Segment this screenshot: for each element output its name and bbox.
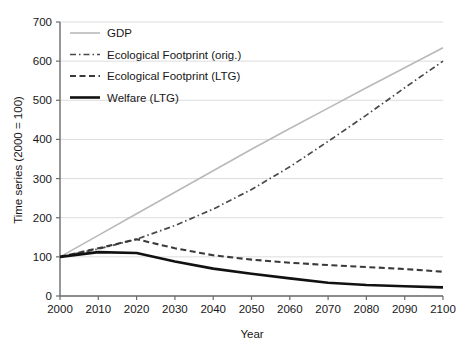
x-axis-tick-label: 2030 bbox=[162, 303, 188, 315]
line-chart: 0100200300400500600700 20002010202020302… bbox=[0, 0, 463, 345]
y-axis-tick-label: 700 bbox=[33, 16, 52, 28]
x-axis-tick-label: 2060 bbox=[277, 303, 303, 315]
y-axis-tick-label: 300 bbox=[33, 173, 52, 185]
chart-container: 0100200300400500600700 20002010202020302… bbox=[0, 0, 463, 345]
y-axis-tick-label: 600 bbox=[33, 55, 52, 67]
x-axis-tick-label: 2050 bbox=[239, 303, 265, 315]
y-axis-title: Time series (2000 = 100) bbox=[12, 96, 24, 224]
legend-label-3: Welfare (LTG) bbox=[107, 92, 179, 104]
x-axis-tick-label: 2100 bbox=[430, 303, 456, 315]
x-axis-tick-label: 2010 bbox=[86, 303, 112, 315]
x-axis-tick-label: 2070 bbox=[315, 303, 341, 315]
y-axis-tick-label: 400 bbox=[33, 133, 52, 145]
y-axis-tick-label: 500 bbox=[33, 94, 52, 106]
x-axis-tick-label: 2020 bbox=[124, 303, 150, 315]
x-axis-title: Year bbox=[240, 328, 263, 340]
y-axis-tick-label: 100 bbox=[33, 251, 52, 263]
x-axis-tick-label: 2090 bbox=[392, 303, 418, 315]
y-axis-tick-label: 200 bbox=[33, 212, 52, 224]
legend-label-2: Ecological Footprint (LTG) bbox=[107, 70, 241, 82]
y-axis-tick-label: 0 bbox=[46, 290, 52, 302]
x-axis-tick-label: 2000 bbox=[47, 303, 73, 315]
legend-label-1: Ecological Footprint (orig.) bbox=[107, 49, 241, 61]
x-axis-tick-label: 2040 bbox=[200, 303, 226, 315]
legend-label-0: GDP bbox=[107, 27, 132, 39]
x-axis-tick-label: 2080 bbox=[354, 303, 380, 315]
